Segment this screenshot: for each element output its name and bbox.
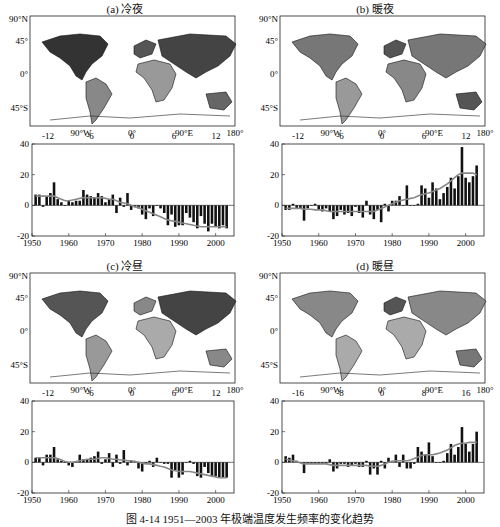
svg-text:45°S: 45°S xyxy=(260,360,278,370)
svg-text:8: 8 xyxy=(422,388,427,398)
svg-text:-6: -6 xyxy=(336,131,344,141)
svg-text:1960: 1960 xyxy=(60,238,79,248)
svg-text:1950: 1950 xyxy=(23,495,42,505)
svg-text:0: 0 xyxy=(275,200,280,210)
svg-text:6: 6 xyxy=(172,388,177,398)
svg-text:0: 0 xyxy=(275,457,280,467)
svg-text:12: 12 xyxy=(462,131,471,141)
chart-c: -12-60612-200204019501960197019801990200… xyxy=(0,387,250,509)
map-a: 90°N45°0°45°S90°W0°90°E180° xyxy=(0,12,250,140)
svg-text:45°: 45° xyxy=(15,293,28,303)
svg-text:1990: 1990 xyxy=(170,495,189,505)
svg-text:45°S: 45°S xyxy=(10,103,28,113)
svg-text:1980: 1980 xyxy=(383,495,402,505)
svg-text:90°N: 90°N xyxy=(9,14,29,24)
svg-text:1960: 1960 xyxy=(310,238,329,248)
svg-text:-6: -6 xyxy=(86,131,94,141)
svg-text:40: 40 xyxy=(270,396,280,406)
svg-text:0°: 0° xyxy=(20,69,29,79)
svg-text:20: 20 xyxy=(20,427,30,437)
svg-text:45°: 45° xyxy=(15,36,28,46)
svg-text:-6: -6 xyxy=(86,388,94,398)
svg-text:6: 6 xyxy=(422,131,427,141)
svg-text:-8: -8 xyxy=(336,388,344,398)
map-d: 90°N45°0°45°S90°W0°90°E180° xyxy=(250,269,500,397)
svg-text:2000: 2000 xyxy=(207,495,226,505)
svg-text:1960: 1960 xyxy=(60,495,79,505)
svg-text:1990: 1990 xyxy=(420,495,439,505)
svg-text:2000: 2000 xyxy=(457,238,476,248)
svg-text:20: 20 xyxy=(270,427,280,437)
svg-text:1970: 1970 xyxy=(96,238,115,248)
svg-text:45°S: 45°S xyxy=(10,360,28,370)
svg-text:0: 0 xyxy=(25,200,30,210)
svg-text:1990: 1990 xyxy=(420,238,439,248)
svg-text:1980: 1980 xyxy=(133,238,152,248)
svg-text:0°: 0° xyxy=(270,326,279,336)
svg-text:0: 0 xyxy=(130,388,135,398)
svg-text:1950: 1950 xyxy=(273,238,292,248)
svg-text:1960: 1960 xyxy=(310,495,329,505)
chart-b: -12-60612-200204019501960197019801990200… xyxy=(250,130,500,252)
svg-text:40: 40 xyxy=(20,139,30,149)
svg-text:1950: 1950 xyxy=(23,238,42,248)
svg-text:20: 20 xyxy=(20,170,30,180)
svg-text:45°: 45° xyxy=(265,36,278,46)
svg-text:1950: 1950 xyxy=(273,495,292,505)
svg-text:12: 12 xyxy=(212,131,221,141)
svg-text:0: 0 xyxy=(380,131,385,141)
svg-text:90°N: 90°N xyxy=(259,14,279,24)
svg-text:45°: 45° xyxy=(265,293,278,303)
svg-text:0: 0 xyxy=(380,388,385,398)
svg-text:16: 16 xyxy=(462,388,472,398)
svg-text:-12: -12 xyxy=(292,131,304,141)
svg-text:1970: 1970 xyxy=(346,495,365,505)
chart-d: -16-80816-200204019501960197019801990200… xyxy=(250,387,500,509)
svg-text:0°: 0° xyxy=(20,326,29,336)
svg-text:-12: -12 xyxy=(42,131,54,141)
svg-text:0°: 0° xyxy=(270,69,279,79)
svg-text:0: 0 xyxy=(25,457,30,467)
svg-text:0: 0 xyxy=(130,131,135,141)
svg-text:6: 6 xyxy=(172,131,177,141)
svg-text:1980: 1980 xyxy=(133,495,152,505)
svg-text:90°N: 90°N xyxy=(259,271,279,281)
svg-text:-12: -12 xyxy=(42,388,54,398)
svg-text:1970: 1970 xyxy=(96,495,115,505)
map-b: 90°N45°0°45°S90°W0°90°E180° xyxy=(250,12,500,140)
svg-text:-16: -16 xyxy=(292,388,304,398)
svg-text:1990: 1990 xyxy=(170,238,189,248)
figure-caption: 图 4-14 1951—2003 年极端温度发生频率的变化趋势 xyxy=(0,510,500,526)
svg-text:2000: 2000 xyxy=(207,238,226,248)
svg-text:45°S: 45°S xyxy=(260,103,278,113)
svg-text:2000: 2000 xyxy=(457,495,476,505)
svg-text:20: 20 xyxy=(270,170,280,180)
chart-a: -12-60612-200204019501960197019801990200… xyxy=(0,130,250,252)
svg-text:40: 40 xyxy=(20,396,30,406)
svg-text:1970: 1970 xyxy=(346,238,365,248)
svg-text:12: 12 xyxy=(212,388,221,398)
svg-text:40: 40 xyxy=(270,139,280,149)
map-c: 90°N45°0°45°S90°W0°90°E180° xyxy=(0,269,250,397)
svg-text:1980: 1980 xyxy=(383,238,402,248)
svg-text:90°N: 90°N xyxy=(9,271,29,281)
